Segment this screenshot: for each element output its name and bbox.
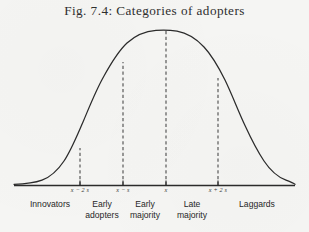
category-label-early-adopters: Early adopters — [85, 199, 118, 220]
figure-container: Fig. 7.4: Categories of adopters x − 2 s… — [0, 0, 309, 232]
category-label-laggards: Laggards — [239, 199, 275, 210]
tick-label-x-minus-2s: x − 2 s — [71, 186, 89, 193]
tick-label-x-minus-s: x − s — [116, 186, 129, 193]
tick-label-x-plus-2s: x + 2 s — [209, 186, 227, 193]
normal-distribution-curve — [14, 30, 295, 184]
category-label-late-majority: Late majority — [177, 199, 207, 220]
tick-label-x-mean: x — [165, 186, 168, 193]
category-label-innovators: Innovators — [30, 199, 70, 210]
bell-curve-plot — [0, 0, 309, 232]
category-label-early-majority: Early majority — [130, 199, 160, 220]
